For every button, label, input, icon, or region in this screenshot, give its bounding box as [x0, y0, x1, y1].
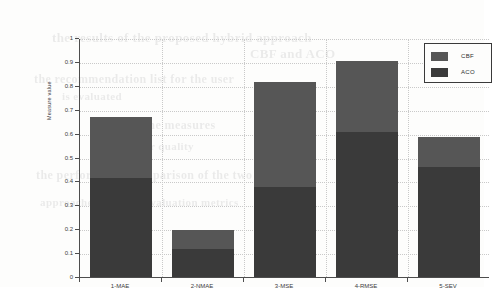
y-tick-label: 0.2 [65, 225, 73, 234]
bar-group [336, 38, 398, 277]
y-tick-label: 0.1 [65, 249, 73, 258]
bar-segment-aco [418, 167, 480, 277]
legend-label: ACO [461, 69, 475, 75]
y-tick-label: 0.3 [65, 201, 73, 210]
bar-segment-cbf [254, 82, 316, 187]
legend-entry: CBF [425, 48, 491, 64]
y-tick-label: 1 [70, 34, 73, 43]
y-tick-label: 0.5 [65, 154, 73, 163]
stacked-bar-chart: Measure value 00.10.20.30.40.50.60.70.80… [40, 16, 496, 292]
x-tick-mark [325, 278, 326, 282]
y-tick-label: 0.8 [65, 82, 73, 91]
bar-segment-aco [336, 132, 398, 277]
legend-label: CBF [461, 53, 474, 59]
bar-segment-cbf [336, 61, 398, 133]
y-tick-label: 0.4 [65, 177, 73, 186]
legend-swatch [431, 52, 448, 61]
legend-swatch [431, 68, 448, 77]
bar-group [254, 38, 316, 277]
bar-segment-aco [172, 249, 234, 277]
x-tick-label: 4-RMSE [355, 283, 378, 289]
bar-segment-cbf [90, 117, 152, 178]
x-tick-mark [407, 278, 408, 282]
x-tick-mark [161, 278, 162, 282]
x-tick-mark [79, 278, 80, 282]
x-tick-label: 2-NMAE [191, 283, 214, 289]
bar-segment-cbf [172, 230, 234, 248]
y-tick-label: 0 [70, 273, 73, 282]
x-tick-label: 5-SEV [439, 283, 456, 289]
y-axis: 00.10.20.30.40.50.60.70.80.91 [40, 39, 79, 278]
x-tick-label: 1-MAE [111, 283, 129, 289]
x-tick-mark [243, 278, 244, 282]
bar-group [172, 38, 234, 277]
y-tick-label: 0.7 [65, 106, 73, 115]
bar-group [90, 38, 152, 277]
y-tick-label: 0.9 [65, 58, 73, 67]
bar-segment-aco [90, 178, 152, 277]
chart-legend: CBFACO [424, 43, 492, 83]
y-tick-label: 0.6 [65, 130, 73, 139]
x-tick-label: 3-MSE [275, 283, 293, 289]
bar-segment-cbf [418, 137, 480, 167]
x-axis: 1-MAE2-NMAE3-MSE4-RMSE5-SEV [79, 278, 489, 292]
legend-entry: ACO [425, 64, 491, 80]
bar-segment-aco [254, 187, 316, 277]
